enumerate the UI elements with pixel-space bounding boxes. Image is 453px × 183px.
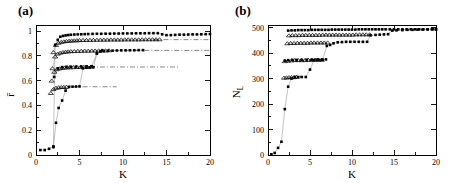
panel-a-yticklabels: 0 0.2 0.4 0.6 0.8 1 (22, 27, 32, 160)
data-marker-square (71, 85, 74, 88)
data-marker-square (309, 68, 312, 71)
data-marker-square (414, 28, 417, 31)
data-marker-square (91, 33, 94, 36)
data-marker-square (317, 29, 320, 32)
panel-b-xticklabels: 0 5 10 15 20 (266, 158, 440, 167)
panel-a-xtick-3: 15 (163, 158, 171, 167)
data-marker-square (116, 49, 119, 52)
panel-a-xtick-1: 5 (78, 158, 82, 167)
data-marker-square (305, 58, 308, 61)
data-marker-square (104, 32, 107, 35)
data-marker-square (61, 66, 64, 69)
panel-a-ytick-1: 0.2 (22, 126, 32, 135)
panel-b-datapoints (270, 28, 437, 156)
data-marker-square (435, 28, 438, 31)
data-marker-square (277, 147, 280, 150)
data-marker-square (369, 34, 372, 37)
data-marker-square (157, 32, 160, 35)
panel-b-yticklabels: 0 100 200 300 400 500 (252, 24, 264, 161)
data-marker-square (178, 33, 181, 36)
data-marker-square (384, 28, 387, 31)
data-marker-square (313, 59, 316, 62)
data-marker-square (55, 122, 58, 125)
data-marker-square (304, 29, 307, 32)
data-marker-square (191, 33, 194, 36)
data-marker-square (120, 49, 123, 52)
svg-text:NL: NL (230, 85, 245, 98)
data-marker-square (101, 49, 104, 52)
data-marker-square (73, 33, 76, 36)
data-marker-square (310, 58, 313, 61)
data-marker-square (67, 34, 70, 37)
data-marker-square (76, 33, 79, 36)
data-marker-square (411, 29, 414, 32)
data-marker-square (59, 35, 62, 38)
panel-b-yaxis-title: NL (230, 85, 245, 98)
data-marker-square (305, 76, 308, 79)
panel-b-yaxis-sub: L (236, 85, 245, 90)
panel-a-ytick-4: 0.8 (22, 52, 32, 61)
data-marker-square (75, 85, 78, 88)
data-marker-square (347, 28, 350, 31)
data-marker-square (287, 29, 290, 32)
data-marker-square (64, 89, 67, 92)
data-marker-square (337, 28, 340, 31)
data-marker-square (297, 76, 300, 79)
data-marker-square (152, 32, 155, 35)
series-guide-line (271, 29, 436, 154)
data-marker-square (52, 146, 55, 149)
data-marker-square (209, 33, 212, 36)
panel-a-label: (a) (18, 3, 33, 19)
data-marker-square (381, 28, 384, 31)
data-marker-square (96, 32, 99, 35)
data-marker-square (196, 33, 199, 36)
data-marker-square (389, 28, 392, 31)
data-marker-square (366, 41, 369, 44)
data-marker-square (332, 42, 335, 45)
data-marker-square (294, 76, 297, 79)
panel-a-xticklabels: 0 5 10 15 20 (34, 158, 214, 167)
data-marker-square (320, 58, 323, 61)
data-marker-square (329, 44, 332, 47)
panel-b-xtick-0: 0 (266, 158, 270, 167)
panel-b: (b) (227, 0, 453, 183)
data-marker-square (300, 76, 303, 79)
data-marker-square (90, 65, 93, 68)
data-marker-square (295, 59, 298, 62)
panel-b-yticks (268, 28, 436, 156)
panel-a-ytick-0: 0 (28, 151, 32, 160)
data-marker-square (361, 28, 364, 31)
data-marker-square (349, 41, 352, 44)
data-marker-square (287, 85, 290, 88)
data-marker-square (113, 32, 116, 35)
panel-a-ytick-5: 1 (28, 27, 32, 36)
data-marker-square (378, 28, 381, 31)
data-marker-square (344, 28, 347, 31)
data-marker-square (165, 34, 168, 37)
data-marker-square (85, 65, 88, 68)
data-marker-square (314, 29, 317, 32)
data-marker-square (310, 29, 313, 32)
data-marker-square (291, 59, 294, 62)
data-marker-square (273, 152, 276, 155)
panel-b-ytick-5: 500 (252, 24, 264, 33)
data-marker-square (80, 65, 83, 68)
data-marker-square (270, 153, 273, 156)
panel-b-ytick-2: 200 (252, 100, 264, 109)
panel-a-frame (36, 25, 210, 155)
data-marker-square (139, 32, 142, 35)
figure-container: (a) (0, 0, 453, 183)
data-marker-square (143, 32, 146, 35)
panel-a-yaxis-title: r̄ (4, 92, 16, 96)
data-marker-square (80, 33, 83, 36)
data-marker-square (56, 67, 59, 70)
data-marker-square (122, 32, 125, 35)
data-marker-square (395, 29, 398, 32)
data-marker-square (336, 41, 339, 44)
data-marker-square (137, 49, 140, 52)
data-marker-square (300, 59, 303, 62)
data-marker-square (48, 148, 51, 151)
panel-b-ytick-3: 300 (252, 75, 264, 84)
data-marker-square (287, 59, 290, 62)
panel-a-xticks (36, 25, 210, 155)
